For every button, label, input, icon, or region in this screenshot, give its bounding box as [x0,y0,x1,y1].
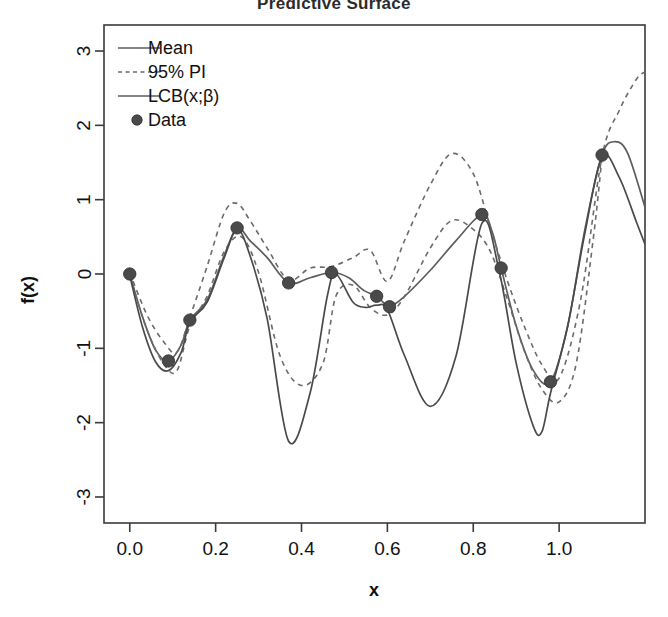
data-point [596,149,608,161]
data-point [495,262,507,274]
data-point [544,376,556,388]
series-line [130,72,645,382]
x-tick-label: 0.2 [202,538,228,559]
data-point [325,266,337,278]
plot-area: -3-2-10123 0.00.20.40.60.81.0 f(x) x Mea… [0,0,668,617]
x-tick-label: 0.8 [460,538,486,559]
y-tick-label: -3 [74,489,95,506]
y-tick-label: 3 [74,46,95,57]
data-point [370,290,382,302]
x-tick-label: 0.6 [374,538,400,559]
chart-legend: Mean95% PILCB(x;β)Data [118,38,219,130]
y-axis-ticks: -3-2-10123 [74,46,105,506]
y-tick-label: 2 [74,120,95,131]
y-tick-label: 1 [74,194,95,205]
y-tick-label: 0 [74,269,95,280]
legend-label: 95% PI [148,62,206,82]
x-axis-ticks: 0.00.20.40.60.81.0 [117,523,573,559]
chart-figure: Predictive Surface -3-2-10123 0.00.20.40… [0,0,668,617]
x-tick-label: 1.0 [546,538,572,559]
data-point [282,277,294,289]
legend-label: Data [148,110,187,130]
data-point [124,268,136,280]
data-point [231,222,243,234]
series-group [130,72,645,444]
y-tick-label: -2 [74,414,95,431]
y-axis-title: f(x) [18,276,38,304]
x-tick-label: 0.4 [288,538,315,559]
data-point [383,301,395,313]
data-point [184,314,196,326]
x-tick-label: 0.0 [117,538,143,559]
legend-label: Mean [148,38,193,58]
x-axis-title: x [369,580,379,600]
data-point [162,355,174,367]
legend-swatch-point [132,115,142,125]
legend-label: LCB(x;β) [148,86,219,106]
series-line [130,142,645,385]
y-tick-label: -1 [74,340,95,357]
data-point [476,208,488,220]
